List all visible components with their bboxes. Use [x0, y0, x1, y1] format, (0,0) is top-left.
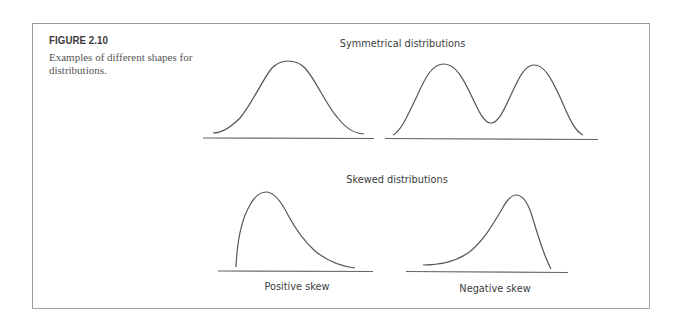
distribution-plots	[0, 0, 685, 332]
positive-skew-curve	[236, 192, 355, 268]
bimodal-curve	[393, 64, 583, 135]
negative-skew-curve	[423, 195, 551, 269]
negative-skew-label: Negative skew	[455, 282, 535, 294]
unimodal-curve	[213, 61, 364, 134]
positive-skew-plot	[218, 192, 373, 272]
negative-skew-baseline	[406, 272, 568, 273]
negative-skew-plot	[406, 195, 568, 273]
bimodal-distribution-plot	[385, 64, 598, 140]
positive-skew-baseline	[218, 271, 373, 272]
bimodal-baseline	[385, 139, 598, 140]
unimodal-baseline	[203, 138, 374, 139]
positive-skew-label: Positive skew	[259, 280, 335, 292]
unimodal-distribution-plot	[203, 61, 374, 139]
